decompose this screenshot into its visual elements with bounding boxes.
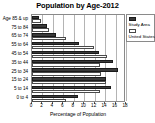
- bar-group: [32, 94, 124, 103]
- bar-group: [32, 33, 124, 42]
- bar-united-states: [32, 63, 100, 66]
- legend-label-united-states: United States: [129, 34, 155, 39]
- y-axis-label: 15 to 24: [0, 77, 28, 82]
- bar-united-states: [32, 90, 100, 93]
- bar-united-states: [32, 81, 106, 84]
- bar-united-states: [32, 19, 41, 22]
- bar-united-states: [32, 99, 66, 102]
- bar-united-states: [32, 55, 107, 58]
- legend-swatch-study-area: [129, 17, 136, 21]
- y-axis-label: 5 to 14: [0, 86, 28, 91]
- legend: Study Area United States: [126, 14, 155, 42]
- chart-title: Population by Age-2012: [0, 1, 155, 10]
- bar-group: [32, 85, 124, 94]
- bar-group: [32, 77, 124, 86]
- y-axis-label: 75 to 84: [0, 25, 28, 30]
- bar-united-states: [32, 72, 101, 75]
- bar-group: [32, 50, 124, 59]
- legend-swatch-united-states: [129, 29, 136, 33]
- bar-united-states: [32, 37, 66, 40]
- y-axis-label: 65 to 74: [0, 33, 28, 38]
- plot-area: [31, 14, 125, 102]
- bar-group: [32, 41, 124, 50]
- bar-group: [32, 24, 124, 33]
- bar-united-states: [32, 46, 94, 49]
- bar-united-states: [32, 28, 49, 31]
- population-by-age-chart: Population by Age-2012 Age 85 & up75 to …: [0, 0, 155, 123]
- y-axis-label: 0 to 4: [0, 95, 28, 100]
- bar-group: [32, 15, 124, 24]
- y-axis-label: Age 85 & up: [0, 16, 28, 21]
- legend-label-study-area: Study Area: [129, 22, 150, 27]
- bar-group: [32, 68, 124, 77]
- y-axis-label: 55 to 64: [0, 42, 28, 47]
- y-axis-label: 25 to 34: [0, 69, 28, 74]
- x-axis-title: Percentage of Population: [31, 111, 125, 117]
- x-axis-tick-label: 18: [119, 103, 131, 108]
- bar-group: [32, 59, 124, 68]
- y-axis-label: 35 to 44: [0, 60, 28, 65]
- y-axis-label: 45 to 54: [0, 51, 28, 56]
